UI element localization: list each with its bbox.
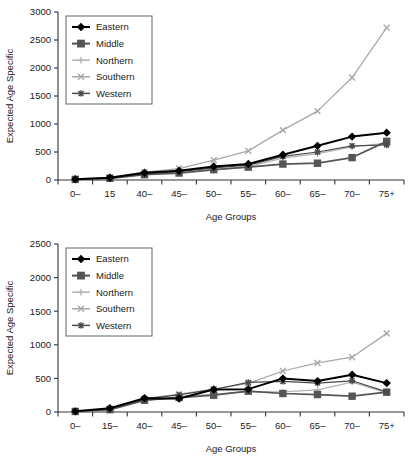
y-tick-label: 2000	[30, 272, 51, 283]
x-tick-label: 65–	[310, 188, 327, 199]
y-tick-label: 0	[46, 174, 51, 185]
x-tick-label: 45–	[171, 420, 188, 431]
y-tick-label: 2500	[30, 34, 51, 45]
x-tick-label: 70–	[344, 420, 361, 431]
data-point-square	[78, 272, 84, 278]
data-point-diamond	[384, 380, 390, 386]
y-tick-label: 1000	[30, 118, 51, 129]
series-line	[75, 145, 386, 179]
data-point-diamond	[384, 129, 390, 135]
data-point-asterisk	[349, 143, 355, 149]
legend: EasternMiddleNorthernSouthernWestern	[66, 248, 152, 336]
x-tick-label: 60–	[275, 188, 292, 199]
y-tick-label: 500	[35, 146, 51, 157]
data-point-cross	[280, 127, 286, 133]
data-point-asterisk	[78, 90, 84, 96]
legend-item-label: Middle	[96, 38, 124, 49]
x-tick-label: 75+	[379, 420, 396, 431]
legend-item-label: Eastern	[96, 21, 129, 32]
data-point-asterisk	[384, 389, 390, 395]
y-tick-label: 1000	[30, 339, 51, 350]
legend-item-label: Southern	[96, 303, 135, 314]
chart-panel-top: 0500100015002000250030000–1540–45–50–55–…	[0, 0, 412, 232]
y-axis-title: Expected Age Specific	[4, 280, 15, 375]
legend-item-label: Southern	[96, 71, 135, 82]
data-point-asterisk	[245, 379, 251, 385]
series-line	[75, 333, 386, 411]
y-tick-label: 2500	[30, 238, 51, 249]
data-point-square	[78, 40, 84, 46]
x-axis-title: Age Groups	[206, 443, 257, 454]
data-point-square	[280, 391, 286, 397]
x-tick-label: 55–	[240, 188, 257, 199]
legend-item-label: Western	[96, 320, 131, 331]
y-tick-label: 0	[46, 406, 51, 417]
x-tick-label: 50–	[206, 420, 223, 431]
data-point-cross	[315, 108, 321, 114]
x-tick-label: 60–	[275, 420, 292, 431]
y-tick-label: 1500	[30, 306, 51, 317]
series-southern	[72, 330, 389, 414]
data-point-asterisk	[384, 142, 390, 148]
legend: EasternMiddleNorthernSouthernWestern	[66, 16, 152, 104]
data-point-cross	[384, 25, 390, 31]
x-axis-title: Age Groups	[206, 211, 257, 222]
data-point-diamond	[349, 133, 355, 139]
y-axis-title: Expected Age Specific	[4, 48, 15, 143]
line-chart-top: 0500100015002000250030000–1540–45–50–55–…	[0, 0, 412, 232]
x-tick-label: 40–	[137, 420, 154, 431]
x-tick-label: 50–	[206, 188, 223, 199]
x-tick-label: 40–	[137, 188, 154, 199]
legend-item-label: Northern	[96, 55, 133, 66]
x-tick-label: 45–	[171, 188, 188, 199]
x-tick-label: 0–	[70, 420, 81, 431]
series-northern	[72, 379, 390, 415]
y-tick-label: 1500	[30, 90, 51, 101]
chart-panel-bottom: 050010001500200025000–15–40–45–50–55–60–…	[0, 232, 412, 464]
x-tick-label: 15	[105, 188, 116, 199]
data-point-cross	[349, 75, 355, 81]
x-tick-label: 15–	[102, 420, 119, 431]
x-tick-label: 70–	[344, 188, 361, 199]
data-point-diamond	[314, 143, 320, 149]
data-point-asterisk	[78, 322, 84, 328]
legend-item-label: Middle	[96, 270, 124, 281]
x-tick-label: 65–	[310, 420, 327, 431]
data-point-square	[315, 160, 321, 166]
y-tick-label: 3000	[30, 6, 51, 17]
series-middle	[72, 388, 389, 414]
data-point-cross	[384, 330, 390, 336]
x-tick-label: 55–	[240, 420, 257, 431]
series-line	[75, 141, 386, 179]
legend-item-label: Eastern	[96, 253, 129, 264]
data-point-square	[315, 392, 321, 398]
line-chart-bottom: 050010001500200025000–15–40–45–50–55–60–…	[0, 232, 412, 464]
data-point-square	[349, 155, 355, 161]
x-tick-label: 0–	[70, 188, 81, 199]
y-tick-label: 2000	[30, 62, 51, 73]
y-tick-label: 500	[35, 373, 51, 384]
data-point-square	[280, 161, 286, 167]
legend-item-label: Western	[96, 88, 131, 99]
x-tick-label: 75+	[379, 188, 396, 199]
data-point-diamond	[349, 372, 355, 378]
data-point-square	[349, 393, 355, 399]
legend-item-label: Northern	[96, 287, 133, 298]
series-line	[75, 391, 386, 411]
data-point-diamond	[280, 375, 286, 381]
